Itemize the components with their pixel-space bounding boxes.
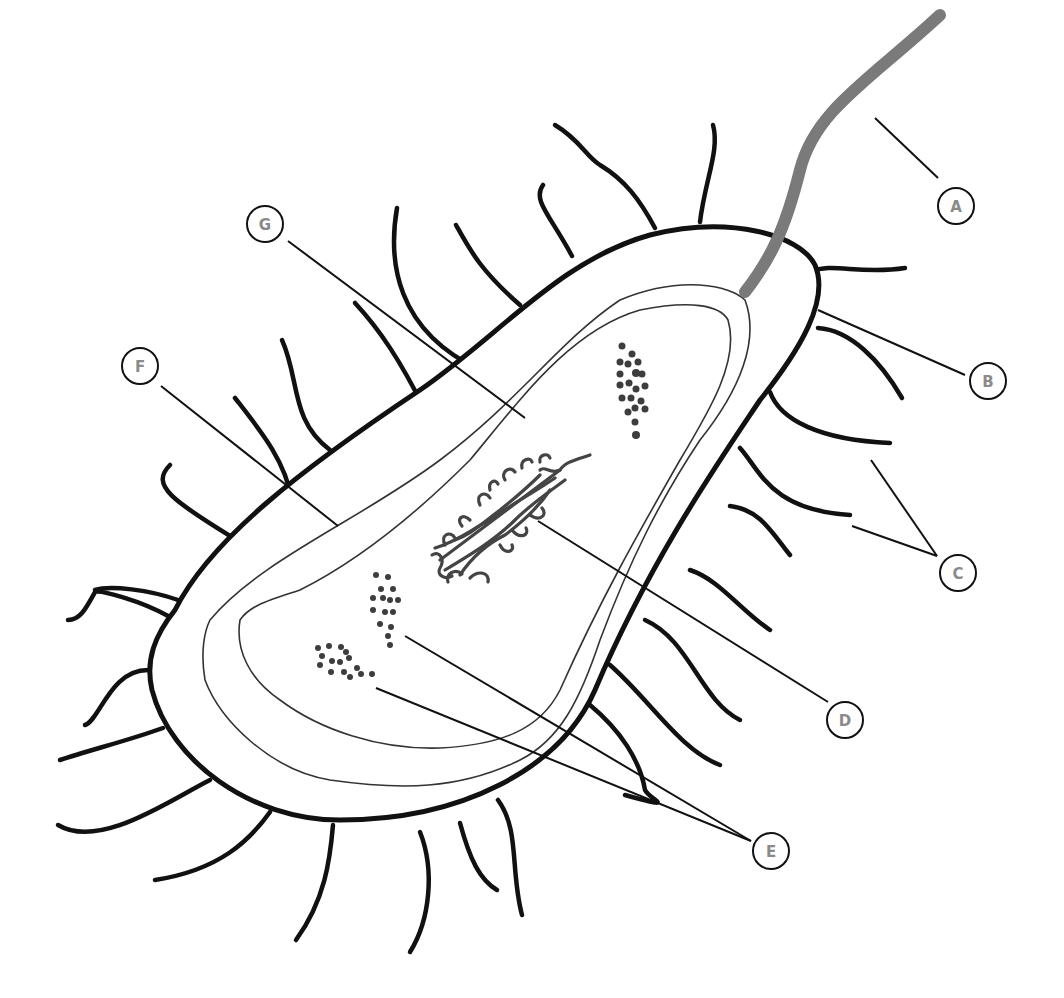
svg-text:E: E (766, 843, 776, 861)
label-d: D (827, 702, 863, 738)
label-f: F (122, 348, 158, 384)
leader-a (875, 118, 938, 178)
svg-text:G: G (259, 216, 271, 234)
leader-f (161, 386, 338, 526)
label-g: G (247, 206, 283, 242)
label-c: C (940, 555, 976, 591)
svg-text:C: C (952, 565, 963, 583)
label-b: B (970, 363, 1006, 399)
svg-text:B: B (982, 373, 993, 391)
bacterial-cell-diagram: A B C D E F G (0, 0, 1064, 998)
leader-c2 (852, 526, 937, 556)
flagellum (745, 15, 940, 292)
svg-text:A: A (950, 198, 962, 216)
leader-g (288, 241, 525, 418)
label-a: A (938, 188, 974, 224)
svg-text:D: D (839, 712, 851, 730)
leader-c1 (871, 460, 937, 556)
svg-text:F: F (135, 358, 145, 376)
label-e: E (753, 833, 789, 869)
leader-b (818, 310, 965, 375)
